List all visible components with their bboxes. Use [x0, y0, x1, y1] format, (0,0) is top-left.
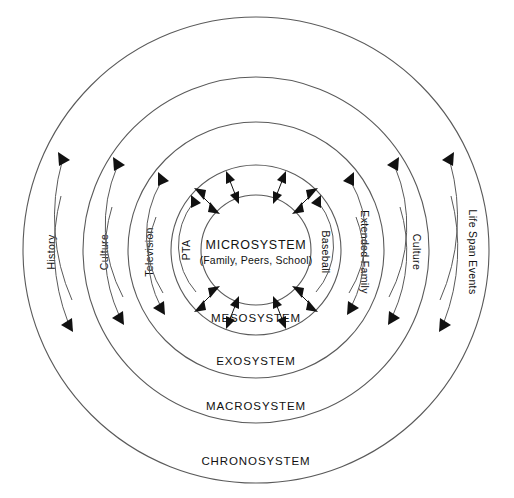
side-label-pta-group: PTA: [180, 240, 192, 261]
microsystem-subtitle: (Family, Peers, School): [200, 254, 313, 266]
ecological-systems-diagram: MICROSYSTEM (Family, Peers, School) MESO…: [0, 0, 514, 498]
ring-label-macrosystem: MACROSYSTEM: [206, 400, 306, 412]
bidirectional-arrow-top-center-right: [273, 171, 286, 204]
side-label-culture-left: Culture: [98, 234, 110, 270]
side-label-culture-right-group: Culture: [411, 234, 423, 270]
side-label-life-span-events-group: Life Span Events: [467, 210, 479, 295]
side-label-pta: PTA: [180, 240, 192, 261]
flow-arc-life-span-events-down: [439, 196, 458, 332]
diagram-canvas: MICROSYSTEM (Family, Peers, School) MESO…: [0, 0, 514, 498]
side-label-life-span-events: Life Span Events: [467, 210, 479, 295]
flow-arc-history-up: [54, 152, 72, 300]
bidirectional-arrow-bottom-right: [292, 286, 318, 312]
bidirectional-arrow-bottom-left: [194, 286, 220, 312]
flow-arc-culture-right-down: [388, 207, 407, 325]
side-label-culture-left-group: Culture: [98, 234, 110, 270]
ring-label-exosystem: EXOSYSTEM: [216, 355, 296, 367]
bidirectional-arrow-top-center-left: [226, 171, 239, 204]
ring-label-chronosystem: CHRONOSYSTEM: [201, 455, 310, 467]
ring-label-mesosystem: MESOSYSTEM: [211, 312, 301, 324]
microsystem-title: MICROSYSTEM: [206, 238, 307, 252]
side-label-culture-right: Culture: [411, 234, 423, 270]
flow-arc-culture-right-up: [387, 157, 407, 297]
flow-arc-life-span-events-up: [440, 152, 458, 300]
flow-arc-history-down: [54, 196, 73, 332]
flow-arc-culture-left-up: [105, 157, 125, 297]
